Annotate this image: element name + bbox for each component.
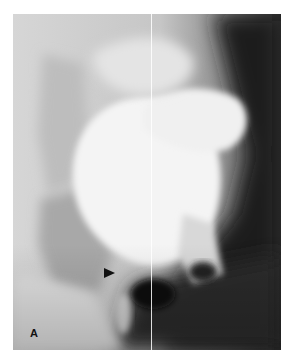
scan-artifact-line bbox=[151, 14, 152, 350]
radiograph-figure: A bbox=[13, 14, 281, 350]
panel-label: A bbox=[30, 328, 38, 339]
arrowhead-marker-icon bbox=[104, 268, 115, 278]
bottom-vignette bbox=[13, 244, 281, 350]
radiograph-image bbox=[13, 14, 281, 350]
